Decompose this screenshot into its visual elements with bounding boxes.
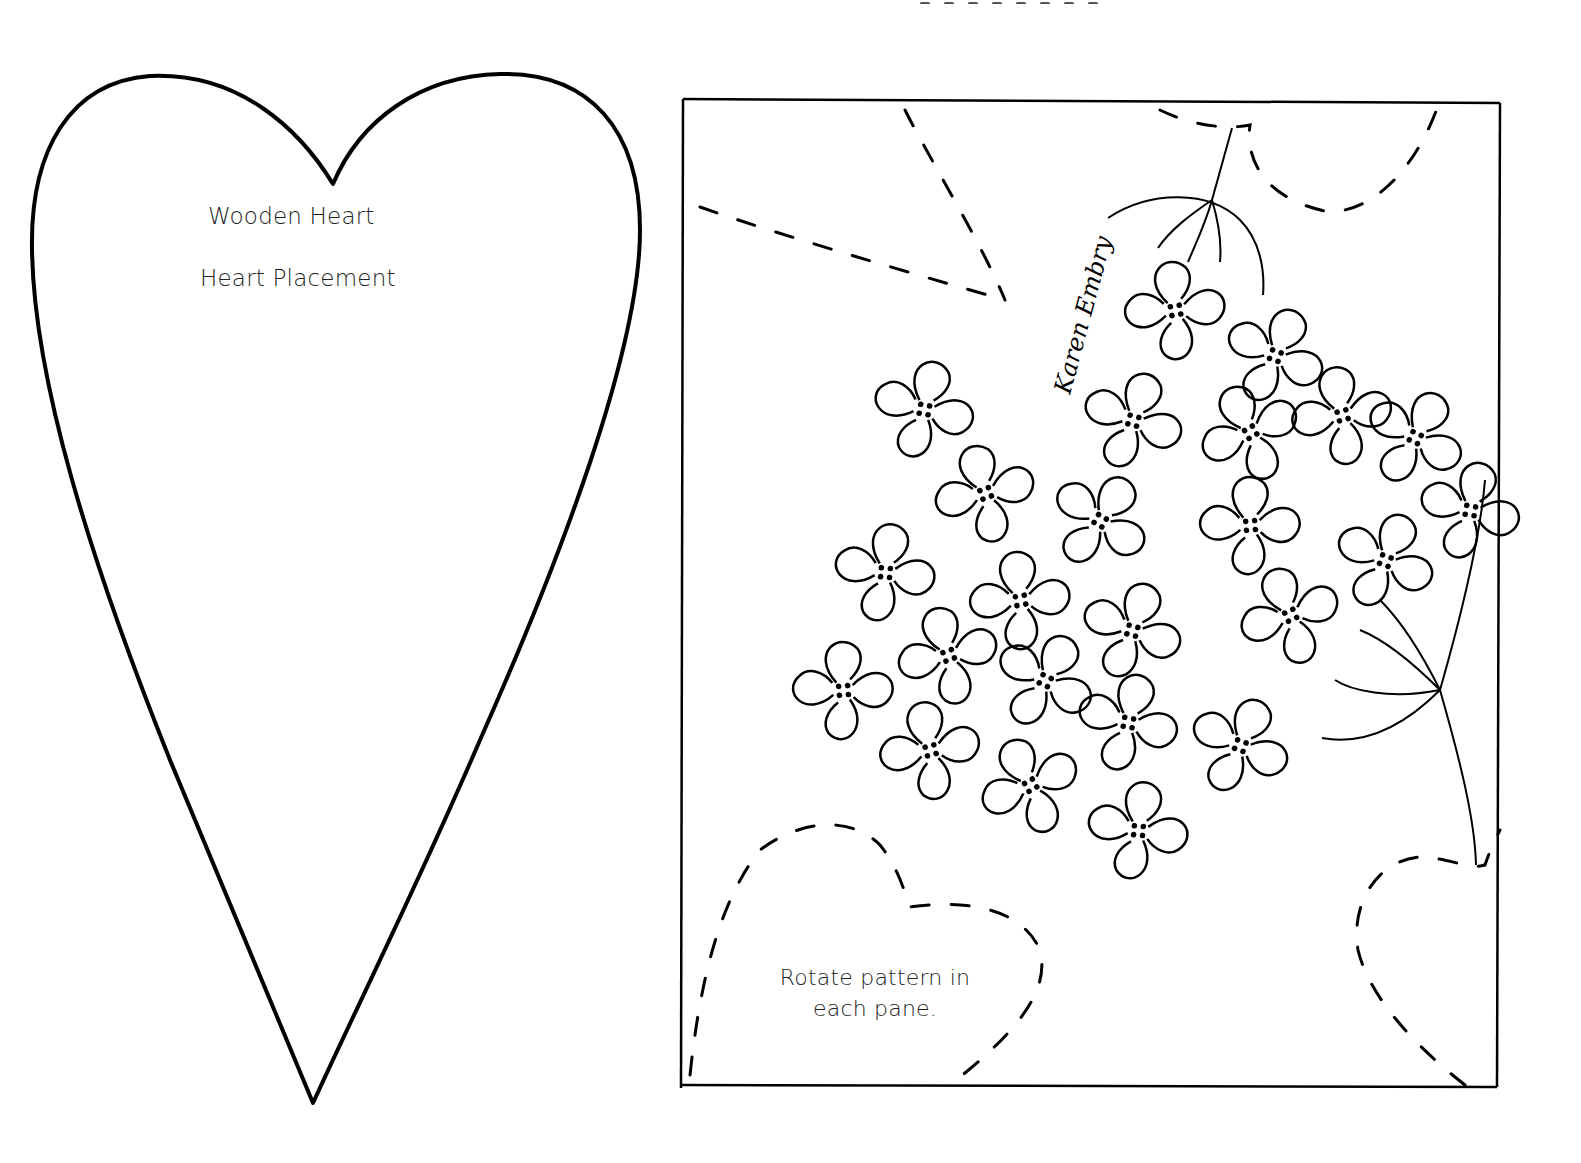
artist-signature: Karen Embry: [1048, 233, 1117, 398]
flower-stems: [1108, 128, 1485, 865]
pattern-page: Karen Embry Wooden Heart Heart Placement…: [0, 0, 1581, 1163]
hydrangea-flowers: [789, 254, 1527, 883]
heart-subtitle: Heart Placement: [200, 265, 396, 291]
pane-rotation-note: Rotate pattern in each pane.: [760, 962, 990, 1024]
heart-title: Wooden Heart: [208, 203, 375, 229]
